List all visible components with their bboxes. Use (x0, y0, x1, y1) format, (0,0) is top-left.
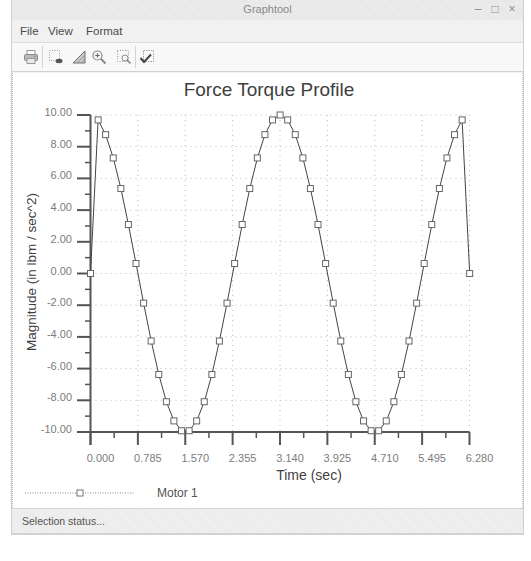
check-document-button[interactable] (138, 48, 156, 66)
zoom-in-button[interactable] (90, 48, 108, 66)
data-point-marker[interactable] (444, 155, 450, 161)
y-tick-label: -2.00 (47, 296, 72, 308)
data-point-marker[interactable] (216, 338, 222, 344)
status-text: Selection status... (22, 515, 105, 527)
zoom-rect-button[interactable] (115, 48, 133, 66)
data-point-marker[interactable] (239, 222, 245, 228)
data-point-marker[interactable] (103, 132, 109, 138)
x-tick-label: 6.280 (466, 452, 494, 464)
minimize-button[interactable]: – (473, 2, 483, 16)
legend[interactable]: Motor 1 (25, 486, 198, 500)
legend-square-marker-icon (77, 490, 83, 496)
data-point-marker[interactable] (224, 300, 230, 306)
data-point-marker[interactable] (88, 271, 94, 277)
menu-format[interactable]: Format (86, 25, 122, 37)
x-tick-label: 1.570 (181, 452, 209, 464)
title-bar[interactable]: Graphtool – □ × (12, 0, 523, 20)
data-point-marker[interactable] (315, 222, 321, 228)
grid (91, 115, 470, 432)
data-point-marker[interactable] (391, 399, 397, 405)
series-line (91, 115, 470, 431)
y-tick-label: 6.00 (51, 169, 72, 181)
toolbar-separator (135, 46, 136, 68)
x-tick-label: 3.925 (324, 452, 352, 464)
data-point-marker[interactable] (141, 300, 147, 306)
data-point-marker[interactable] (383, 418, 389, 424)
data-point-marker[interactable] (163, 399, 169, 405)
data-point-marker[interactable] (376, 428, 382, 434)
data-point-marker[interactable] (338, 338, 344, 344)
data-point-marker[interactable] (323, 261, 329, 267)
data-point-marker[interactable] (361, 418, 367, 424)
data-point-marker[interactable] (421, 261, 427, 267)
zoom-in-icon (91, 49, 107, 65)
data-point-marker[interactable] (285, 117, 291, 123)
data-point-marker[interactable] (179, 428, 185, 434)
y-tick-label: 4.00 (51, 201, 72, 213)
y-tick-label: -8.00 (47, 391, 72, 403)
y-tick-label: 8.00 (51, 138, 72, 150)
maximize-button[interactable]: □ (490, 2, 500, 16)
area-fill-button[interactable] (70, 48, 88, 66)
menu-view[interactable]: View (48, 25, 73, 37)
data-point-marker[interactable] (292, 132, 298, 138)
x-tick-label: 4.710 (371, 452, 399, 464)
close-button[interactable]: × (507, 2, 517, 16)
data-point-marker[interactable] (118, 186, 124, 192)
data-point-marker[interactable] (414, 300, 420, 306)
data-point-marker[interactable] (277, 112, 283, 118)
data-point-marker[interactable] (186, 428, 192, 434)
data-point-marker[interactable] (429, 222, 435, 228)
data-point-marker[interactable] (353, 399, 359, 405)
data-point-marker[interactable] (436, 186, 442, 192)
data-point-marker[interactable] (368, 428, 374, 434)
data-point-marker[interactable] (95, 117, 101, 123)
data-point-marker[interactable] (110, 155, 116, 161)
chart-panel: 10.008.006.004.002.000.00-2.00-4.00-6.00… (12, 73, 523, 508)
x-tick-label: 2.355 (229, 452, 257, 464)
axes (77, 115, 470, 445)
data-point-marker[interactable] (125, 222, 131, 228)
x-tick-label: 0.785 (134, 452, 162, 464)
data-point-marker[interactable] (209, 371, 215, 377)
data-point-marker[interactable] (330, 300, 336, 306)
plot-svg[interactable]: 10.008.006.004.002.000.00-2.00-4.00-6.00… (12, 73, 523, 508)
data-point-marker[interactable] (452, 132, 458, 138)
select-points-button[interactable] (47, 48, 65, 66)
data-point-marker[interactable] (254, 155, 260, 161)
print-icon (23, 49, 39, 65)
data-point-marker[interactable] (133, 261, 139, 267)
data-point-marker[interactable] (300, 155, 306, 161)
x-tick-label: 0.000 (87, 452, 115, 464)
legend-label: Motor 1 (157, 486, 198, 500)
data-point-marker[interactable] (232, 261, 238, 267)
print-button[interactable] (22, 48, 40, 66)
y-axis-title: Magnitude (in lbm / sec^2) (24, 193, 39, 351)
toolbar (12, 43, 523, 72)
select-points-icon (48, 49, 64, 65)
data-point-marker[interactable] (467, 271, 473, 277)
data-point-marker[interactable] (345, 371, 351, 377)
window-controls: – □ × (473, 2, 517, 16)
y-tick-label: 10.00 (44, 106, 72, 118)
data-point-marker[interactable] (307, 186, 313, 192)
data-point-marker[interactable] (247, 186, 253, 192)
x-tick-label: 3.140 (276, 452, 304, 464)
data-point-marker[interactable] (262, 132, 268, 138)
toolbar-separator (42, 46, 43, 68)
data-point-marker[interactable] (148, 338, 154, 344)
data-point-marker[interactable] (270, 117, 276, 123)
data-point-marker[interactable] (171, 418, 177, 424)
data-point-marker[interactable] (459, 117, 465, 123)
data-point-marker[interactable] (156, 371, 162, 377)
y-tick-label: -4.00 (47, 328, 72, 340)
data-point-marker[interactable] (194, 418, 200, 424)
area-fill-icon (71, 49, 87, 65)
x-tick-label: 5.495 (418, 452, 446, 464)
x-axis-title: Time (sec) (276, 467, 342, 483)
data-point-marker[interactable] (201, 399, 207, 405)
data-point-marker[interactable] (398, 371, 404, 377)
app-window: Graphtool – □ × File View Format (12, 0, 523, 534)
data-point-marker[interactable] (406, 338, 412, 344)
menu-file[interactable]: File (20, 25, 39, 37)
